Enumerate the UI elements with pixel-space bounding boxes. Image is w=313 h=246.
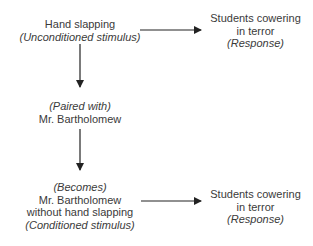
response-bottom-role: (Response) <box>198 213 313 226</box>
response-top-line1: Students cowering <box>198 12 313 25</box>
response-top-role: (Response) <box>198 37 313 50</box>
ucs-label: Hand slapping <box>10 18 150 31</box>
response-bottom-line2: in terror <box>198 201 313 214</box>
paired-relation: (Paired with) <box>10 100 150 113</box>
paired-label: Mr. Bartholomew <box>10 113 150 126</box>
node-unconditioned-stimulus: Hand slapping (Unconditioned stimulus) <box>10 18 150 43</box>
node-paired-with: (Paired with) Mr. Bartholomew <box>10 100 150 125</box>
cs-label-line2: without hand slapping <box>10 206 150 219</box>
node-conditioned-stimulus: (Becomes) Mr. Bartholomew without hand s… <box>10 181 150 231</box>
cs-role: (Conditioned stimulus) <box>10 219 150 232</box>
response-bottom-line1: Students cowering <box>198 188 313 201</box>
cs-relation: (Becomes) <box>10 181 150 194</box>
node-response-bottom: Students cowering in terror (Response) <box>198 188 313 226</box>
ucs-role: (Unconditioned stimulus) <box>10 31 150 44</box>
node-response-top: Students cowering in terror (Response) <box>198 12 313 50</box>
response-top-line2: in terror <box>198 25 313 38</box>
cs-label-line1: Mr. Bartholomew <box>10 194 150 207</box>
